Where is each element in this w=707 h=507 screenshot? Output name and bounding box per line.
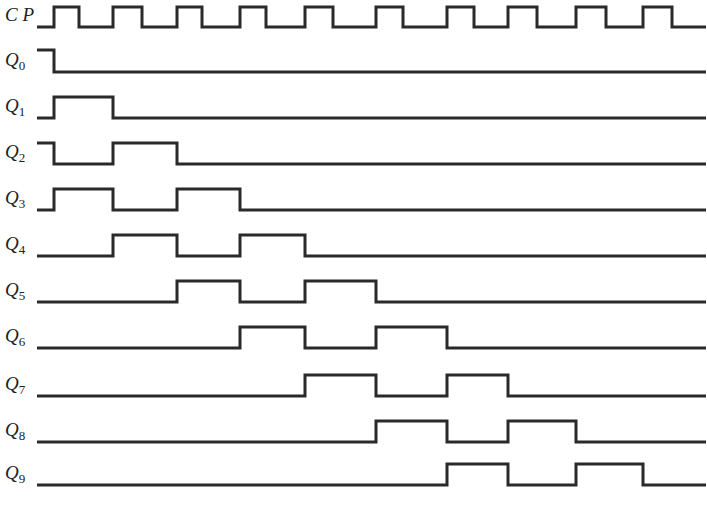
- signal-subscript: 9: [19, 471, 26, 486]
- waveform-q6: [37, 327, 706, 348]
- signal-name: Q: [5, 373, 19, 394]
- signal-subscript: 7: [19, 382, 26, 397]
- signal-subscript: 6: [19, 334, 26, 349]
- signal-label-cp: C P: [5, 5, 34, 24]
- signal-name: Q: [5, 279, 19, 300]
- waveform-q7: [37, 375, 706, 396]
- waveform-q5: [37, 281, 706, 302]
- signal-label-q3: Q3: [5, 188, 25, 210]
- signal-name: Q: [5, 187, 19, 208]
- signal-label-q4: Q4: [5, 234, 25, 256]
- waveform-q1: [37, 97, 706, 118]
- signal-label-q6: Q6: [5, 326, 25, 348]
- waveform-q3: [37, 189, 706, 210]
- signal-label-q2: Q2: [5, 142, 25, 164]
- waveform-q2: [37, 143, 706, 164]
- signal-name: Q: [5, 49, 19, 70]
- signal-label-q7: Q7: [5, 374, 25, 396]
- signal-name: Q: [5, 325, 19, 346]
- signal-subscript: 5: [19, 288, 26, 303]
- signal-subscript: 4: [19, 242, 26, 257]
- signal-label-q0: Q0: [5, 50, 25, 72]
- signal-subscript: 8: [19, 428, 26, 443]
- waveform-q0: [37, 50, 706, 72]
- signal-subscript: 0: [19, 58, 26, 73]
- waveforms: [0, 0, 707, 507]
- waveform-q9: [37, 464, 706, 485]
- signal-label-q1: Q1: [5, 96, 25, 118]
- signal-name: Q: [5, 233, 19, 254]
- signal-name: C P: [5, 4, 34, 25]
- waveform-q4: [37, 235, 706, 256]
- signal-name: Q: [5, 419, 19, 440]
- waveform-q8: [37, 421, 706, 442]
- waveform-cp: [37, 7, 706, 27]
- signal-label-q8: Q8: [5, 420, 25, 442]
- signal-subscript: 3: [19, 196, 26, 211]
- signal-name: Q: [5, 141, 19, 162]
- signal-subscript: 2: [19, 150, 26, 165]
- signal-name: Q: [5, 462, 19, 483]
- signal-subscript: 1: [19, 104, 26, 119]
- timing-diagram: C PQ0Q1Q2Q3Q4Q5Q6Q7Q8Q9: [0, 0, 707, 507]
- signal-label-q9: Q9: [5, 463, 25, 485]
- signal-label-q5: Q5: [5, 280, 25, 302]
- signal-name: Q: [5, 95, 19, 116]
